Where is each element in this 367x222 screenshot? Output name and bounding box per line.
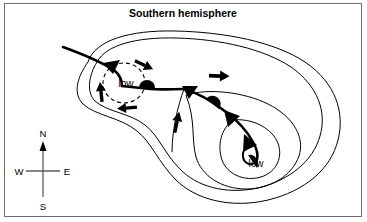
arrow-north-of-west-low: [95, 82, 107, 103]
compass-label-south: S: [40, 201, 46, 212]
compass-label-west: W: [15, 166, 24, 177]
page-title: Southern hemisphere: [129, 7, 237, 19]
compass-label-east: E: [64, 166, 70, 177]
compass-label-north: N: [40, 128, 47, 139]
warm-front-semicircle-2: [206, 96, 221, 109]
weather-chart: Southern hemisphere: [0, 0, 367, 222]
isobar-3: [186, 92, 301, 189]
warm-front-semicircle-1: [139, 80, 155, 88]
isobar-4: [220, 120, 280, 179]
arrow-north-of-east-low: [209, 70, 230, 82]
cold-front-triangle-3: [224, 110, 240, 127]
isobar-group: [77, 31, 340, 203]
isobar-outer-1: [77, 31, 340, 203]
diagram-page: Southern hemisphere: [0, 0, 367, 222]
label-low-west: low: [118, 78, 134, 89]
label-low-east: low: [248, 158, 264, 169]
isobar-2: [89, 38, 322, 190]
compass-north-arrowhead: [40, 141, 47, 151]
arrow-south-of-west-low: [117, 102, 138, 114]
front-system: [63, 47, 258, 168]
compass-rose: N S W E: [15, 128, 71, 212]
arrow-top-of-west-low: [133, 56, 155, 74]
